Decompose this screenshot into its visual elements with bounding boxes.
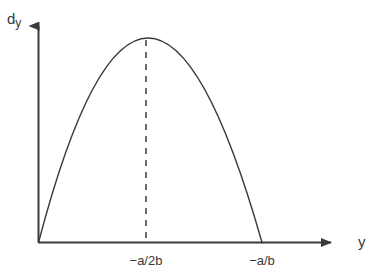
- parabola-figure: dy y −a/2b −a/b: [0, 0, 382, 277]
- x-tick-label-vertex: −a/2b: [130, 254, 163, 267]
- parabola-curve: [39, 38, 263, 243]
- y-axis-label: dy: [7, 11, 21, 29]
- x-tick-label-root: −a/b: [249, 254, 275, 267]
- x-axis-label: y: [358, 234, 366, 249]
- plot-canvas: [0, 0, 382, 277]
- y-axis-label-subscript: y: [15, 16, 21, 30]
